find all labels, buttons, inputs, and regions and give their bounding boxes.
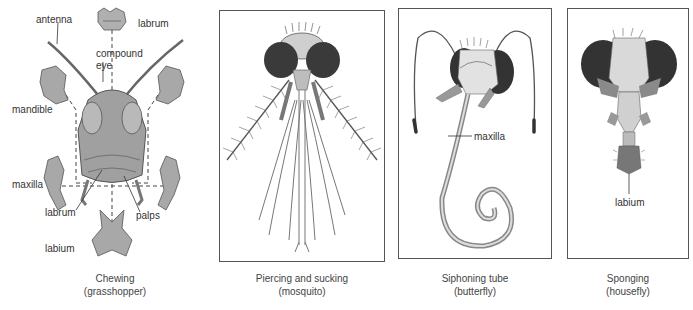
caption-siphoning-line2: (butterfly) bbox=[420, 285, 530, 298]
label-labrum-top: labrum bbox=[138, 18, 169, 29]
labrum-part bbox=[98, 8, 126, 30]
label-palps: palps bbox=[136, 210, 160, 221]
label-maxilla: maxilla bbox=[12, 179, 43, 190]
label-labrum-bottom: labrum bbox=[45, 207, 76, 218]
caption-siphoning-line1: Siphoning tube bbox=[420, 272, 530, 285]
label-mandible: mandible bbox=[12, 104, 53, 115]
grasshopper-illustration bbox=[0, 0, 220, 270]
label-maxilla-butterfly: maxilla bbox=[474, 131, 505, 142]
caption-piercing-line2: (mosquito) bbox=[232, 285, 372, 298]
caption-sponging-line2: (housefly) bbox=[588, 285, 668, 298]
mosquito-illustration bbox=[219, 10, 385, 262]
label-compound-eye-line2: eye bbox=[96, 60, 112, 71]
caption-chewing-line1: Chewing bbox=[70, 272, 160, 285]
label-antenna: antenna bbox=[36, 14, 72, 25]
caption-sponging-line1: Sponging bbox=[588, 272, 668, 285]
label-labium-housefly: labium bbox=[615, 197, 644, 208]
caption-piercing-line1: Piercing and sucking bbox=[232, 272, 372, 285]
caption-chewing-line2: (grasshopper) bbox=[70, 285, 160, 298]
label-labium: labium bbox=[45, 243, 74, 254]
label-compound-eye-line1: compound bbox=[96, 48, 143, 59]
housefly-illustration bbox=[567, 8, 689, 259]
